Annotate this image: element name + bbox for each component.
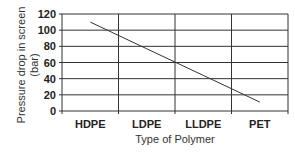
y-tick-label: 0 <box>50 105 56 117</box>
y-tick-label: 20 <box>44 89 56 101</box>
y-tick-label: 40 <box>44 73 56 85</box>
x-axis-label: Type of Polymer <box>135 133 215 145</box>
y-tick-label: 60 <box>44 57 56 69</box>
category-label: LDPE <box>132 118 161 130</box>
x-axis-categories: HDPELDPELLDPEPET <box>75 118 271 130</box>
category-label: PET <box>249 118 271 130</box>
y-tick-label: 100 <box>38 24 56 36</box>
line-chart: 020406080100120 HDPELDPELLDPEPET Type of… <box>0 0 295 155</box>
y-axis-ticks: 020406080100120 <box>38 8 56 117</box>
category-label: LLDPE <box>185 118 221 130</box>
y-tick-label: 120 <box>38 8 56 20</box>
y-tick-label: 80 <box>44 40 56 52</box>
category-label: HDPE <box>75 118 106 130</box>
